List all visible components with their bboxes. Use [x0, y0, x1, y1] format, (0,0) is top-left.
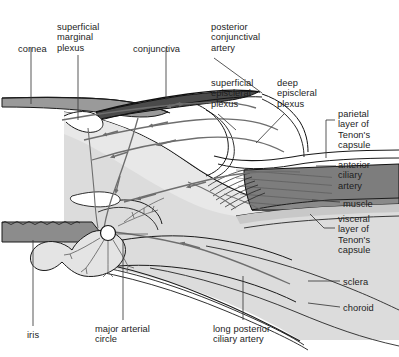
label-parietal-layer-tenons-capsule: parietallayer ofTenon'scapsule — [338, 109, 370, 151]
label-sclera: sclera — [343, 277, 368, 287]
label-deep-episcleral-plexus: deepepiscleralplexus — [277, 78, 317, 109]
label-posterior-conjunctival-artery: posteriorconjunctivalartery — [211, 22, 260, 53]
label-major-arterial-circle: major arterialcircle — [95, 324, 150, 345]
label-conjunctiva: conjunctiva — [133, 44, 180, 54]
label-long-posterior-ciliary-artery: long posteriorciliary artery — [213, 324, 270, 345]
label-anterior-ciliary-artery: anteriorciliaryartery — [338, 160, 370, 191]
label-choroid: choroid — [343, 303, 374, 313]
label-iris: iris — [27, 330, 39, 340]
label-cornea: cornea — [18, 44, 47, 54]
label-superficial-episcleral-plexus: superficialepiscleralplexus — [211, 78, 253, 109]
label-muscle: muscle — [343, 199, 373, 209]
label-superficial-marginal-plexus: superficialmarginalplexus — [57, 22, 99, 53]
diagram-canvas: cornea superficialmarginalplexus conjunc… — [0, 0, 399, 357]
label-visceral-layer-tenons-capsule: viscerallayer ofTenon'scapsule — [338, 214, 370, 256]
